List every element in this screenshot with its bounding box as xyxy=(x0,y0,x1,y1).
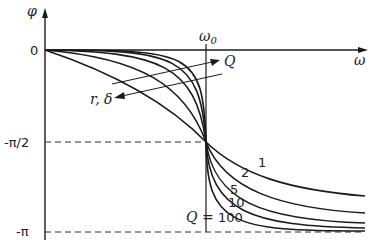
curve-label-10: 10 xyxy=(228,195,245,210)
q-arrow-head-icon xyxy=(210,59,220,66)
x-axis-label: ω xyxy=(354,52,366,68)
omega0-label: ω0 xyxy=(199,28,217,46)
damping-arrow-head-icon xyxy=(114,92,125,99)
damping-arrow-label: r, δ xyxy=(90,91,112,107)
curve-q100-upper xyxy=(45,50,206,142)
q-infinity-label: Q = xyxy=(186,209,214,225)
damping-arrow xyxy=(122,74,222,96)
y-axis-arrow-icon xyxy=(42,8,48,18)
y-tick-minus-pi: -π xyxy=(16,224,29,239)
curve-label-2: 2 xyxy=(241,165,249,180)
y-tick-0: 0 xyxy=(30,43,38,58)
curve-label-100: 100 xyxy=(218,210,243,225)
y-tick-minus-pi-half: -π/2 xyxy=(4,135,29,150)
phase-diagram: φ ω 0 -π/2 -π ω0 Q r, δ 1 2 5 10 100 Q = xyxy=(0,0,386,247)
curve-label-1: 1 xyxy=(258,155,266,170)
y-axis-label: φ xyxy=(27,3,37,19)
q-arrow-label: Q xyxy=(224,53,236,69)
